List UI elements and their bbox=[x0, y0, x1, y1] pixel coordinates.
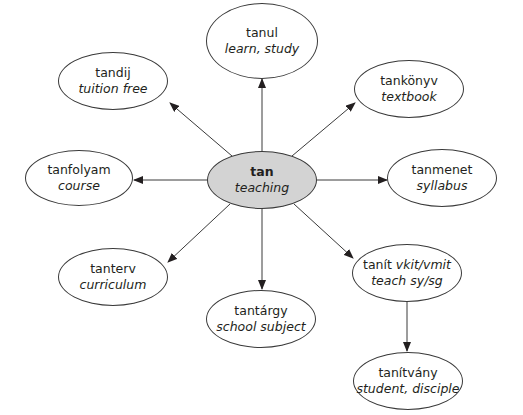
node-term: tantárgy bbox=[234, 303, 287, 319]
node-term: tandij bbox=[95, 65, 130, 81]
node-term: tanterv bbox=[90, 261, 136, 277]
node-gloss: teaching bbox=[235, 180, 289, 196]
node-term: tankönyv bbox=[380, 73, 438, 89]
node-gloss: teach sy/sg bbox=[371, 273, 443, 289]
node-tantargy: tantárgy school subject bbox=[206, 290, 316, 348]
node-tanfolyam: tanfolyam course bbox=[25, 150, 133, 206]
node-term: tanítvány bbox=[378, 365, 437, 381]
node-tanterv: tanterv curriculum bbox=[58, 248, 168, 306]
word-family-diagram: tan teaching tanul learn, study tandij t… bbox=[0, 0, 523, 415]
node-tanit: tanít vkit/vmit teach sy/sg bbox=[352, 244, 462, 302]
edge-arrow-tan-tanit bbox=[294, 204, 353, 258]
node-gloss: course bbox=[58, 178, 100, 194]
node-tan: tan teaching bbox=[207, 151, 317, 209]
node-tandij: tandij tuition free bbox=[58, 52, 168, 110]
node-gloss: learn, study bbox=[225, 41, 300, 57]
node-term: tanul bbox=[246, 25, 278, 41]
node-term: tanfolyam bbox=[47, 162, 110, 178]
node-gloss: tuition free bbox=[78, 81, 147, 97]
node-term: tanít vkit/vmit bbox=[363, 257, 451, 273]
node-gloss: curriculum bbox=[80, 277, 147, 293]
node-gloss: school subject bbox=[216, 319, 305, 335]
node-gloss: syllabus bbox=[417, 178, 468, 194]
node-gloss: textbook bbox=[381, 89, 436, 105]
edge-arrow-tan-tandij bbox=[170, 103, 232, 156]
node-tanul: tanul learn, study bbox=[206, 3, 318, 79]
node-tankonyv: tankönyv textbook bbox=[354, 60, 464, 118]
edge-arrow-tan-tanterv bbox=[168, 204, 230, 262]
edge-arrow-tan-tankonyv bbox=[292, 103, 355, 156]
node-tanitvany: tanítvány student, disciple bbox=[353, 352, 463, 410]
node-tanmenet: tanmenet syllabus bbox=[387, 149, 497, 207]
node-term-italic: vkit/vmit bbox=[396, 257, 451, 272]
node-term: tan bbox=[250, 164, 273, 180]
node-gloss: student, disciple bbox=[356, 381, 459, 397]
node-term-main: tanít bbox=[363, 257, 392, 272]
node-term: tanmenet bbox=[412, 162, 473, 178]
